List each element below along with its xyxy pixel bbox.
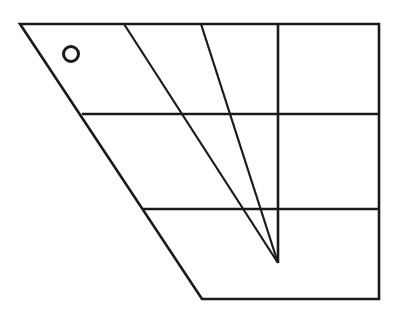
figure-background [0,0,401,319]
line-drawing-figure [0,0,401,319]
